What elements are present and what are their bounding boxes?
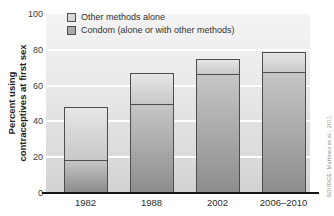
plot-area	[46, 14, 310, 193]
y-tick-label-20: 20	[33, 152, 43, 162]
contraceptive-use-bar-chart: Percent using contraceptives at first se…	[0, 0, 334, 216]
x-axis-labels: 1982198820022006–2010	[46, 197, 310, 211]
bar-segment-condom-1988	[131, 104, 173, 192]
bar-segment-other-2002	[197, 60, 239, 74]
bar-segment-condom-2006–2010	[263, 72, 305, 192]
legend-item-condom: Condom (alone or with other methods)	[67, 25, 235, 35]
x-axis-line	[42, 192, 319, 194]
x-tick-label-1982: 1982	[75, 197, 96, 208]
y-axis-ticks: 020406080100	[0, 14, 43, 193]
bar-1988	[130, 73, 174, 193]
bar-segment-condom-1982	[65, 160, 107, 192]
legend: Other methods alone Condom (alone or wit…	[67, 12, 235, 35]
x-tick-label-1988: 1988	[141, 197, 162, 208]
bar-segment-other-1982	[65, 108, 107, 160]
bar-1982	[64, 107, 108, 193]
y-tick-label-80: 80	[33, 45, 43, 55]
bar-segment-condom-2002	[197, 74, 239, 192]
bar-segment-other-2006–2010	[263, 53, 305, 72]
x-tick-label-2006–2010: 2006–2010	[260, 197, 308, 208]
bar-segment-other-1988	[131, 74, 173, 104]
source-note: SOURCE: Martinez et al., 2011.	[326, 114, 332, 198]
x-tick-label-2002: 2002	[207, 197, 228, 208]
legend-swatch-condom	[67, 26, 76, 35]
legend-label-other-methods: Other methods alone	[81, 12, 165, 22]
legend-swatch-other-methods	[67, 13, 76, 22]
y-tick-label-40: 40	[33, 116, 43, 126]
legend-label-condom: Condom (alone or with other methods)	[81, 25, 235, 35]
y-tick-label-60: 60	[33, 81, 43, 91]
y-tick-label-100: 100	[28, 9, 43, 19]
legend-item-other-methods: Other methods alone	[67, 12, 235, 22]
bars-layer	[46, 14, 310, 193]
bar-2006–2010	[262, 52, 306, 193]
bar-2002	[196, 59, 240, 193]
